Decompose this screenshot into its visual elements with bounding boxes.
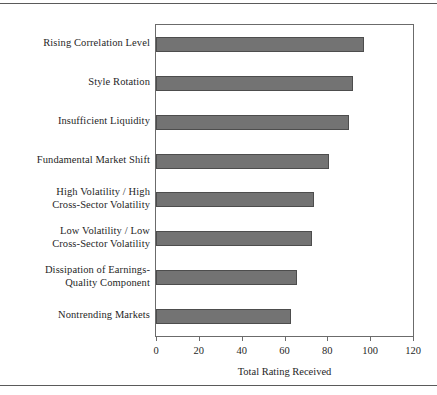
x-tick-mark	[285, 337, 286, 341]
category-label: Insufficient Liquidity	[0, 115, 150, 128]
bottom-divider-rule	[0, 385, 437, 386]
x-tick-label: 20	[179, 344, 219, 357]
category-label: High Volatility / HighCross-Sector Volat…	[0, 186, 150, 211]
category-label: Fundamental Market Shift	[0, 154, 150, 167]
category-label: Style Rotation	[0, 76, 150, 89]
bar	[156, 231, 312, 246]
bar	[156, 37, 364, 52]
x-tick-mark	[370, 337, 371, 341]
x-tick-mark	[242, 337, 243, 341]
bar	[156, 76, 353, 91]
x-tick-label: 80	[307, 344, 347, 357]
x-tick-mark	[327, 337, 328, 341]
x-tick-label: 120	[393, 344, 433, 357]
x-tick-label: 0	[136, 344, 176, 357]
x-axis-title: Total Rating Received	[155, 366, 414, 377]
bars-layer	[156, 25, 413, 336]
x-tick-label: 40	[222, 344, 262, 357]
category-label: Nontrending Markets	[0, 309, 150, 322]
bar	[156, 309, 291, 324]
x-tick-label: 100	[350, 344, 390, 357]
x-axis: 020406080100120	[155, 337, 414, 367]
x-tick-mark	[413, 337, 414, 341]
bar	[156, 192, 314, 207]
x-tick-mark	[199, 337, 200, 341]
bar	[156, 115, 349, 130]
x-tick-mark	[156, 337, 157, 341]
bar	[156, 270, 297, 285]
chart-page: Rising Correlation LevelStyle RotationIn…	[0, 0, 437, 395]
horizontal-bar-chart: Rising Correlation LevelStyle RotationIn…	[0, 0, 437, 385]
category-label: Low Volatility / LowCross-Sector Volatil…	[0, 225, 150, 250]
category-label: Rising Correlation Level	[0, 37, 150, 50]
category-label: Dissipation of Earnings-Quality Componen…	[0, 264, 150, 289]
category-axis-labels: Rising Correlation LevelStyle RotationIn…	[0, 24, 150, 337]
x-tick-label: 60	[265, 344, 305, 357]
bar	[156, 154, 329, 169]
